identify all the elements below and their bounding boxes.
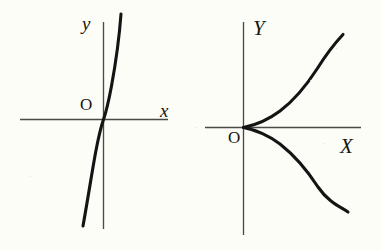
paper-speck bbox=[310, 80, 311, 81]
paper-speck bbox=[336, 48, 337, 49]
plots-canvas bbox=[0, 0, 381, 250]
origin-label-right: O bbox=[228, 129, 240, 146]
paper-speck bbox=[324, 143, 325, 144]
y-axis-label-left: y bbox=[82, 14, 90, 33]
paper-speck bbox=[30, 176, 31, 177]
parabola-upper-branch bbox=[244, 35, 344, 128]
parabola-lower-branch bbox=[244, 128, 349, 213]
paper-speck bbox=[196, 127, 197, 128]
figure-sheet: y x O Y X O bbox=[0, 0, 381, 250]
x-axis-label-left: x bbox=[160, 101, 168, 120]
x-axis-label-right: X bbox=[340, 136, 353, 157]
origin-label-left: O bbox=[80, 96, 92, 113]
left-panel-group bbox=[20, 14, 168, 229]
y-axis-label-right: Y bbox=[253, 18, 265, 39]
